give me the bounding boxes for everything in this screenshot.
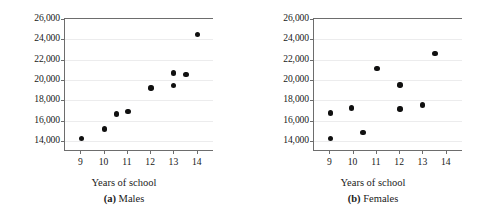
gridline <box>65 60 213 61</box>
x-axis-title: Years of school <box>249 176 497 189</box>
gridline <box>314 39 462 40</box>
y-tick-mark <box>61 141 65 142</box>
x-tick-mark <box>329 150 330 154</box>
gridline <box>314 141 462 142</box>
x-tick-label: 11 <box>115 156 139 167</box>
x-tick-mark <box>173 150 174 154</box>
x-axis-title: Years of school <box>0 176 248 189</box>
x-tick-label: 11 <box>364 156 388 167</box>
x-tick-label: 13 <box>161 156 185 167</box>
gridline <box>65 100 213 101</box>
y-tick-label: 18,000 <box>267 94 309 104</box>
y-tick-label: 26,000 <box>18 13 60 23</box>
data-point <box>349 105 354 110</box>
y-tick-mark <box>61 100 65 101</box>
y-tick-mark <box>61 80 65 81</box>
y-tick-mark <box>61 121 65 122</box>
data-point <box>397 82 402 87</box>
x-tick-mark <box>104 150 105 154</box>
chart-panel-females: Income ($) 14,00016,00018,00020,00022,00… <box>249 0 497 216</box>
x-tick-label: 12 <box>138 156 162 167</box>
panel-letter: (b) <box>348 193 361 204</box>
x-axis-line <box>64 150 213 151</box>
x-tick-mark <box>127 150 128 154</box>
x-tick-label: 14 <box>434 156 458 167</box>
gridline <box>65 39 213 40</box>
x-tick-label: 12 <box>387 156 411 167</box>
y-tick-mark <box>61 19 65 20</box>
data-point <box>148 85 153 90</box>
x-tick-mark <box>150 150 151 154</box>
data-point <box>195 32 200 37</box>
data-point <box>171 70 176 75</box>
gridline <box>314 121 462 122</box>
x-tick-label: 10 <box>92 156 116 167</box>
x-tick-label: 10 <box>341 156 365 167</box>
gridline <box>65 80 213 81</box>
x-tick-mark <box>80 150 81 154</box>
y-tick-mark <box>310 100 314 101</box>
x-tick-mark <box>197 150 198 154</box>
y-tick-mark <box>310 80 314 81</box>
plot-area <box>64 18 213 150</box>
y-tick-mark <box>310 141 314 142</box>
panel-caption: (a) Males <box>0 192 248 205</box>
data-point <box>432 51 437 56</box>
x-tick-mark <box>399 150 400 154</box>
scatter-plot-figure: Income ($) 14,00016,00018,00020,00022,00… <box>0 0 497 216</box>
y-tick-mark <box>310 121 314 122</box>
x-tick-label: 13 <box>410 156 434 167</box>
data-point <box>397 106 402 111</box>
gridline <box>65 141 213 142</box>
x-tick-mark <box>446 150 447 154</box>
y-tick-label: 20,000 <box>267 74 309 84</box>
y-tick-mark <box>310 60 314 61</box>
gridline <box>314 80 462 81</box>
y-tick-label: 16,000 <box>267 115 309 125</box>
y-tick-label: 14,000 <box>18 135 60 145</box>
y-tick-mark <box>310 39 314 40</box>
data-point <box>328 110 333 115</box>
panel-letter: (a) <box>104 193 116 204</box>
y-tick-label: 20,000 <box>18 74 60 84</box>
y-tick-label: 16,000 <box>18 115 60 125</box>
y-tick-mark <box>61 39 65 40</box>
data-point <box>171 83 176 88</box>
data-point <box>183 72 188 77</box>
x-tick-mark <box>353 150 354 154</box>
data-point <box>125 109 130 114</box>
plot-area <box>313 18 462 150</box>
x-tick-label: 9 <box>68 156 92 167</box>
x-tick-mark <box>422 150 423 154</box>
gridline <box>65 121 213 122</box>
data-point <box>420 102 425 107</box>
y-tick-mark <box>61 60 65 61</box>
x-tick-label: 14 <box>185 156 209 167</box>
y-tick-label: 24,000 <box>18 33 60 43</box>
data-point <box>374 66 379 71</box>
panel-title: Males <box>119 193 145 204</box>
y-tick-label: 24,000 <box>267 33 309 43</box>
x-tick-label: 9 <box>317 156 341 167</box>
data-point <box>360 130 365 135</box>
x-tick-mark <box>376 150 377 154</box>
y-tick-label: 22,000 <box>267 54 309 64</box>
data-point <box>328 136 333 141</box>
gridline <box>314 100 462 101</box>
panel-title: Females <box>363 193 398 204</box>
y-tick-mark <box>310 19 314 20</box>
chart-panel-males: Income ($) 14,00016,00018,00020,00022,00… <box>0 0 248 216</box>
data-point <box>102 126 107 131</box>
y-tick-label: 18,000 <box>18 94 60 104</box>
data-point <box>114 111 119 116</box>
y-tick-label: 22,000 <box>18 54 60 64</box>
gridline <box>314 60 462 61</box>
y-tick-label: 26,000 <box>267 13 309 23</box>
data-point <box>79 136 84 141</box>
panel-caption: (b) Females <box>249 192 497 205</box>
y-tick-label: 14,000 <box>267 135 309 145</box>
x-axis-line <box>313 150 462 151</box>
